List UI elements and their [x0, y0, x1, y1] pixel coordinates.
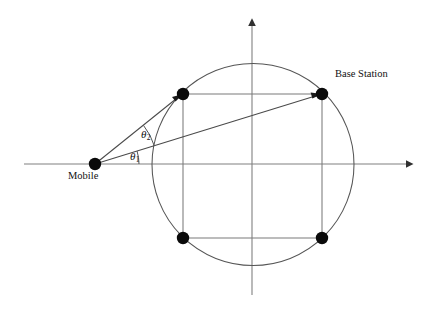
theta-2-subscript: 2: [147, 133, 151, 142]
nodes-group: [89, 88, 328, 244]
node-scatterer-top-left[interactable]: [177, 88, 189, 100]
ray-mobile-to-base-station: [95, 96, 315, 164]
node-base-station[interactable]: [316, 88, 328, 100]
label-base-station: Base Station: [335, 68, 388, 79]
theta-1-subscript: 1: [136, 155, 140, 164]
figure-canvas: Mobile Base Station θ2 θ1: [0, 0, 429, 310]
label-theta-1: θ1: [130, 150, 139, 164]
label-theta-2: θ2: [141, 128, 150, 142]
node-scatterer-bottom-right[interactable]: [316, 232, 328, 244]
theta-2-glyph: θ: [141, 128, 146, 140]
label-mobile: Mobile: [68, 170, 98, 181]
node-mobile[interactable]: [89, 158, 101, 170]
diagram-svg: [0, 0, 429, 310]
vertical-axis-arrowhead: [248, 18, 256, 26]
node-scatterer-bottom-left[interactable]: [177, 232, 189, 244]
axes-group: [24, 18, 414, 295]
horizontal-axis-arrowhead: [406, 160, 414, 168]
theta-1-glyph: θ: [130, 150, 135, 162]
